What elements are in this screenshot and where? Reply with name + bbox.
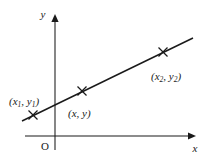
x-axis-label: x [192, 142, 198, 154]
point-label-1: (x1, y1) [9, 95, 39, 109]
point-marker-2 [159, 48, 168, 57]
point-label-mid-close: ) [86, 107, 91, 120]
point-marker-1 [29, 111, 38, 120]
point-label-mid: (x, y) [68, 107, 91, 120]
line-graph-figure: y x O (x1, y1) (x, y) (x2, y2) [0, 0, 210, 165]
point-label-1-close: ) [34, 95, 39, 108]
x-axis-arrow-icon [188, 132, 196, 139]
point-label-2: (x2, y2) [151, 70, 181, 84]
figure-container: y x O (x1, y1) (x, y) (x2, y2) [0, 0, 210, 165]
origin-label: O [41, 140, 49, 152]
y-axis-label: y [40, 8, 46, 20]
point-label-2-close: ) [176, 70, 181, 83]
y-axis-arrow-icon [51, 14, 58, 22]
